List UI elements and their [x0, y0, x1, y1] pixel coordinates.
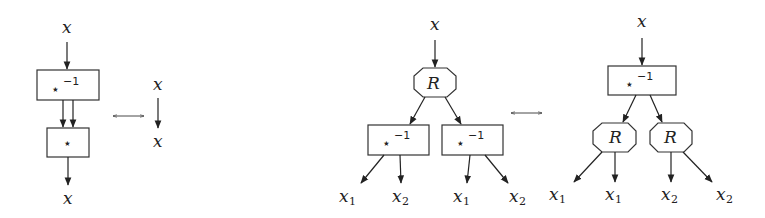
right-identity-lhs: x R ⋆ −1 ⋆ −1 x 1 x 2 x 1 x 2 [339, 14, 526, 208]
arrow [623, 95, 636, 122]
svg-text:2: 2 [402, 195, 409, 208]
input-label: x [430, 14, 440, 34]
star-op: ⋆ [382, 135, 391, 151]
diagram-canvas: x ⋆ −1 ⋆ x x x x R ⋆ −1 ⋆ −1 x [0, 0, 765, 218]
star-op: ⋆ [51, 81, 60, 97]
arrow [574, 152, 602, 182]
output-label: x 2 [509, 186, 526, 208]
svg-text:2: 2 [671, 193, 678, 206]
svg-text:x: x [453, 186, 463, 206]
svg-text:1: 1 [349, 195, 356, 208]
arrow [445, 97, 461, 124]
svg-text:2: 2 [519, 195, 526, 208]
star-op: ⋆ [63, 135, 72, 151]
svg-text:1: 1 [559, 193, 566, 206]
output-label: x 1 [339, 186, 356, 208]
inverse-sup: −1 [394, 129, 410, 142]
arrow [410, 97, 425, 124]
output-label: x 2 [661, 184, 678, 206]
arrow [650, 95, 662, 122]
arrow [400, 155, 401, 183]
R-label: R [663, 127, 677, 147]
svg-text:x: x [549, 184, 559, 204]
arrow [485, 155, 508, 183]
arrow [683, 152, 712, 182]
input-label: x [62, 17, 72, 37]
output-label: x 2 [392, 186, 409, 208]
svg-text:x: x [605, 184, 615, 204]
arrow [467, 155, 470, 183]
svg-text:x: x [392, 186, 402, 206]
R-label: R [426, 73, 440, 93]
output-label: x 1 [605, 184, 622, 206]
inverse-sup: −1 [63, 75, 79, 88]
svg-text:2: 2 [726, 193, 733, 206]
R-label: R [608, 127, 622, 147]
output-label: x 2 [716, 184, 733, 206]
svg-text:1: 1 [463, 195, 470, 208]
left-identity-lhs: x ⋆ −1 ⋆ x [37, 17, 99, 208]
output-label: x 1 [549, 184, 566, 206]
svg-text:1: 1 [615, 193, 622, 206]
svg-text:x: x [716, 184, 726, 204]
svg-text:x: x [339, 186, 349, 206]
output-label: x 1 [453, 186, 470, 208]
input-label: x [153, 74, 163, 94]
inverse-sup: −1 [468, 129, 484, 142]
left-identity-rhs: x x [153, 74, 163, 151]
svg-text:x: x [509, 186, 519, 206]
input-label: x [637, 11, 647, 31]
star-op: ⋆ [456, 135, 465, 151]
right-identity-rhs: x ⋆ −1 R R x 1 x 1 x 2 x 2 [549, 11, 733, 206]
svg-text:x: x [661, 184, 671, 204]
output-label: x [153, 131, 163, 151]
output-label: x [63, 188, 73, 208]
inverse-sup: −1 [637, 70, 653, 83]
star-op: ⋆ [625, 76, 634, 92]
arrow [361, 155, 384, 183]
